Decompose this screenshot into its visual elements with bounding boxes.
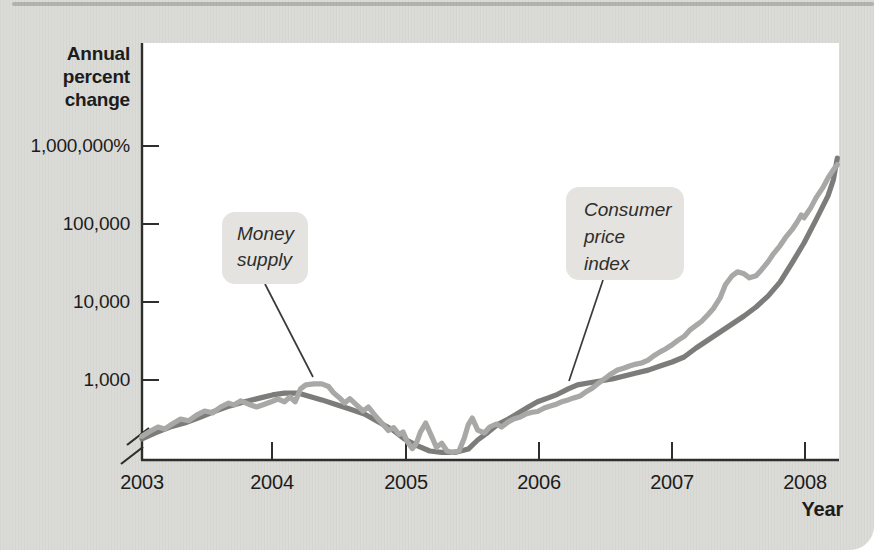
x-tick-label-2005: 2005 [361, 471, 451, 494]
x-tick-label-2008: 2008 [760, 471, 850, 494]
y-tick-label-10000: 10,000 [0, 291, 130, 313]
cpi-annotation-line3: index [584, 250, 684, 277]
money-supply-annotation-line1: Money [237, 221, 308, 247]
y-axis-title-line2: percent [0, 65, 130, 88]
y-axis-title: Annual percent change [0, 42, 130, 111]
cpi-annotation-line1: Consumer [584, 196, 684, 223]
y-axis-title-line1: Annual [0, 42, 130, 65]
x-tick-label-2007: 2007 [627, 471, 717, 494]
cpi-annotation: Consumer price index [566, 187, 684, 280]
money-supply-annotation-line2: supply [237, 247, 308, 273]
x-axis-title: Year [770, 498, 843, 521]
x-tick-label-2006: 2006 [494, 471, 584, 494]
figure-card: Annual percent change 1,000,000% 100,000… [0, 0, 874, 550]
y-tick-label-100000: 100,000 [0, 213, 130, 235]
x-tick-label-2003: 2003 [97, 471, 187, 494]
y-axis-title-line3: change [0, 88, 130, 111]
y-tick-label-1000000: 1,000,000% [0, 135, 130, 157]
x-tick-label-2004: 2004 [227, 471, 317, 494]
y-tick-label-1000: 1,000 [0, 369, 130, 391]
cpi-annotation-line2: price [584, 223, 684, 250]
money-supply-annotation: Money supply [222, 212, 308, 284]
